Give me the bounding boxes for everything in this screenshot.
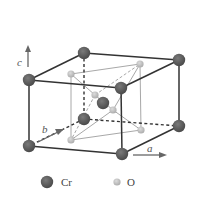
arrow-icon xyxy=(55,129,64,135)
axis-label-a: a xyxy=(147,142,153,154)
axis-label-b: b xyxy=(42,123,48,135)
o-atom xyxy=(67,70,74,77)
axis-a: a xyxy=(133,142,167,158)
o-atom xyxy=(67,136,74,143)
legend-o-swatch xyxy=(113,178,120,185)
arrow-up-icon xyxy=(25,45,31,52)
o-atom xyxy=(109,106,116,113)
legend-cr-swatch xyxy=(41,176,53,188)
cr-atom xyxy=(78,47,90,59)
o-atom xyxy=(136,60,143,67)
cr-atom xyxy=(78,113,90,125)
arrow-right-icon xyxy=(159,152,167,158)
axis-label-c: c xyxy=(17,56,22,68)
cr-atom xyxy=(173,54,185,66)
legend: Cr O xyxy=(41,176,135,188)
o-atom xyxy=(91,91,98,98)
legend-o-label: O xyxy=(127,176,135,188)
cr-atom xyxy=(173,120,185,132)
axis-c: c xyxy=(17,45,31,68)
o-atom xyxy=(137,126,144,133)
legend-cr-label: Cr xyxy=(61,176,72,188)
cr-atom xyxy=(116,148,128,160)
crystal-structure-diagram: c b a Cr O xyxy=(0,0,203,197)
cr-atom xyxy=(115,82,127,94)
cr-atom xyxy=(23,140,35,152)
cr-atom xyxy=(23,74,35,86)
cr-atom-center xyxy=(97,97,109,109)
